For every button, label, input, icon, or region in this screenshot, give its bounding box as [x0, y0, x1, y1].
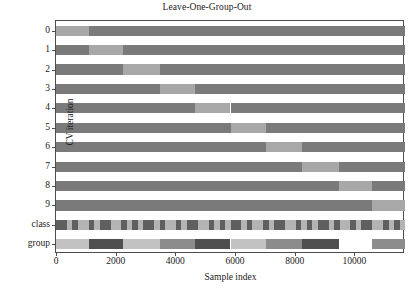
- y-tick-mark: [52, 70, 56, 71]
- cv-iteration-row: [56, 142, 403, 152]
- x-tick-mark: [116, 252, 117, 256]
- training-segment: [302, 142, 405, 152]
- y-tick-mark: [52, 186, 56, 187]
- y-tick-mark: [52, 50, 56, 51]
- training-segment: [160, 64, 405, 74]
- heatmap-rows: [56, 21, 403, 252]
- y-tick-mark: [52, 205, 56, 206]
- group-segment: [123, 239, 160, 249]
- cv-iteration-row: [56, 103, 403, 113]
- y-tick-mark: [52, 167, 56, 168]
- y-tick-label: 9: [0, 200, 50, 210]
- training-segment: [195, 84, 405, 94]
- group-segment: [266, 239, 302, 249]
- figure: Leave-One-Group-Out CV iteration Sample …: [0, 0, 414, 304]
- group-segment: [302, 239, 339, 249]
- cv-iteration-row: [56, 181, 403, 191]
- cv-iteration-row: [56, 162, 403, 172]
- group-segment: [160, 239, 194, 249]
- group-segment: [339, 239, 372, 249]
- y-tick-label: 5: [0, 123, 50, 133]
- training-segment: [266, 123, 405, 133]
- group-segment: [231, 239, 267, 249]
- x-tick-label: 0: [54, 257, 59, 267]
- group-segment: [56, 239, 89, 249]
- x-tick-label: 4000: [166, 257, 185, 267]
- cv-iteration-row: [56, 123, 403, 133]
- y-tick-label: group: [0, 239, 50, 249]
- training-segment: [56, 123, 231, 133]
- chart-title: Leave-One-Group-Out: [0, 2, 414, 12]
- test-segment: [302, 162, 339, 172]
- class-label-row: [56, 220, 403, 230]
- y-tick-label: class: [0, 220, 50, 230]
- training-segment: [56, 142, 266, 152]
- x-tick-mark: [354, 252, 355, 256]
- group-segment: [89, 239, 123, 249]
- y-tick-label: 8: [0, 181, 50, 191]
- test-segment: [339, 181, 372, 191]
- cv-iteration-row: [56, 200, 403, 210]
- training-segment: [56, 200, 372, 210]
- training-segment: [89, 26, 405, 36]
- cv-iteration-row: [56, 26, 403, 36]
- training-segment: [372, 181, 405, 191]
- x-tick-mark: [175, 252, 176, 256]
- x-tick-label: 6000: [225, 257, 244, 267]
- cv-iteration-row: [56, 84, 403, 94]
- y-tick-label: 1: [0, 45, 50, 55]
- cv-iteration-row: [56, 45, 403, 55]
- test-segment: [266, 142, 302, 152]
- test-segment: [123, 64, 160, 74]
- y-tick-label: 7: [0, 162, 50, 172]
- x-tick-mark: [56, 252, 57, 256]
- test-segment: [231, 123, 267, 133]
- training-segment: [339, 162, 405, 172]
- y-axis-label: CV iteration: [65, 62, 75, 182]
- x-tick-label: 2000: [106, 257, 125, 267]
- training-segment: [231, 103, 406, 113]
- test-segment: [195, 103, 231, 113]
- y-tick-mark: [52, 225, 56, 226]
- y-tick-label: 2: [0, 65, 50, 75]
- test-segment: [372, 200, 405, 210]
- y-tick-mark: [52, 31, 56, 32]
- y-tick-label: 0: [0, 26, 50, 36]
- y-tick-mark: [52, 244, 56, 245]
- class-stripe: [400, 220, 405, 230]
- x-tick-mark: [295, 252, 296, 256]
- group-segment: [372, 239, 405, 249]
- y-tick-mark: [52, 108, 56, 109]
- training-segment: [123, 45, 405, 55]
- plot-area: CV iteration Sample index 0123456789clas…: [55, 20, 404, 253]
- x-axis-label: Sample index: [56, 272, 405, 282]
- group-label-row: [56, 239, 403, 249]
- training-segment: [56, 181, 339, 191]
- test-segment: [160, 84, 194, 94]
- x-tick-label: 8000: [285, 257, 304, 267]
- y-tick-mark: [52, 89, 56, 90]
- training-segment: [56, 162, 302, 172]
- training-segment: [56, 45, 89, 55]
- training-segment: [56, 103, 195, 113]
- y-tick-label: 3: [0, 84, 50, 94]
- test-segment: [89, 45, 123, 55]
- group-segment: [195, 239, 231, 249]
- y-tick-label: 6: [0, 142, 50, 152]
- x-tick-mark: [235, 252, 236, 256]
- y-tick-mark: [52, 128, 56, 129]
- test-segment: [56, 26, 89, 36]
- cv-iteration-row: [56, 64, 403, 74]
- y-tick-label: 4: [0, 103, 50, 113]
- x-tick-label: 10000: [342, 257, 366, 267]
- y-tick-mark: [52, 147, 56, 148]
